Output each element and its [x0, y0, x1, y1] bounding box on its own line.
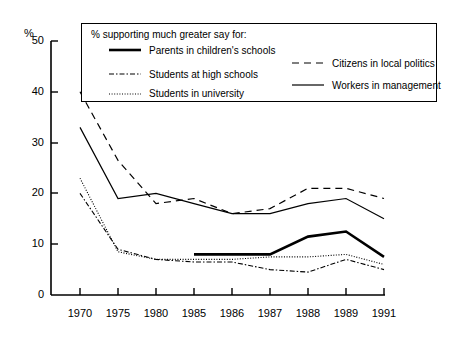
legend-sample-citizens	[290, 57, 326, 69]
series-line-4	[80, 127, 384, 218]
y-axis-ticks	[51, 41, 58, 244]
legend-sample-high-schools	[107, 68, 143, 80]
legend-sample-university	[107, 88, 143, 100]
legend-label-university: Students in university	[149, 88, 244, 99]
x-tick-label-1991: 1991	[361, 307, 407, 319]
y-tick-label-20: 20	[18, 186, 44, 198]
series-line-0	[194, 232, 384, 257]
legend-label-citizens: Citizens in local politics	[332, 58, 435, 69]
legend-label-high-schools: Students at high schools	[149, 69, 258, 80]
legend-sample-workers	[290, 79, 326, 91]
legend-label-workers: Workers in management	[332, 80, 441, 91]
y-tick-label-0: 0	[18, 288, 44, 300]
legend-sample-parents	[107, 44, 143, 56]
legend-label-parents: Parents in children's schools	[149, 45, 275, 56]
y-tick-label-30: 30	[18, 136, 44, 148]
series-line-3	[80, 92, 384, 214]
x-axis-ticks	[80, 288, 384, 295]
legend-title: % supporting much greater say for:	[91, 29, 247, 40]
data-series-layer	[80, 92, 384, 272]
y-tick-label-50: 50	[18, 34, 44, 46]
line-chart-figure: % 50 40 30 20 10 0 1970 1975 1980 1985 1…	[0, 0, 463, 351]
chart-legend: % supporting much greater say for: Paren…	[81, 23, 437, 102]
y-tick-label-40: 40	[18, 85, 44, 97]
y-tick-label-10: 10	[18, 237, 44, 249]
